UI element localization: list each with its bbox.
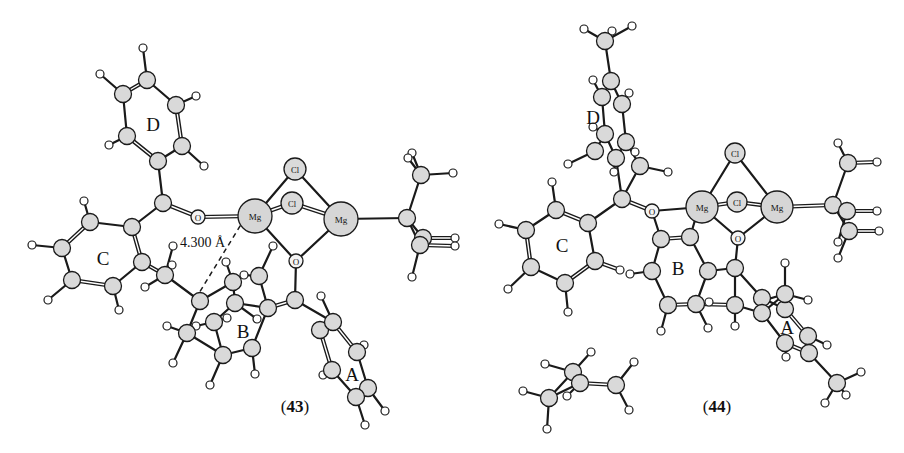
atom-h bbox=[625, 406, 633, 414]
atom-c bbox=[688, 296, 705, 313]
atom-c bbox=[800, 328, 817, 345]
atom-cl: Cl bbox=[725, 143, 745, 163]
atom-c bbox=[644, 263, 661, 280]
atom-h bbox=[206, 381, 214, 389]
ring-label-c: C bbox=[556, 235, 569, 256]
atom-c bbox=[700, 263, 717, 280]
atom-c bbox=[399, 210, 416, 227]
svg-text:Cl: Cl bbox=[731, 149, 740, 159]
ring-label-b: B bbox=[237, 321, 250, 342]
atom-c bbox=[653, 231, 670, 248]
ring-label-a: A bbox=[780, 317, 794, 338]
atom-c bbox=[134, 254, 151, 271]
atom-h bbox=[28, 241, 36, 249]
atom-h bbox=[449, 169, 457, 177]
svg-text:O: O bbox=[293, 257, 300, 267]
atom-c bbox=[660, 297, 677, 314]
atom-c bbox=[287, 292, 304, 309]
atom-c bbox=[412, 237, 429, 254]
atom-h bbox=[821, 399, 829, 407]
atom-h bbox=[564, 308, 572, 316]
svg-text:Cl: Cl bbox=[288, 199, 297, 209]
atom-h bbox=[875, 227, 883, 235]
molecular-structures-figure: OOClClMgMg DCBA 4.300 Å (43) OOClClMgMg … bbox=[0, 0, 904, 453]
caption-44: (44) bbox=[703, 397, 731, 416]
atom-h bbox=[834, 254, 842, 262]
atom-h bbox=[781, 259, 789, 267]
ring-labels-43: DCBA bbox=[97, 114, 359, 385]
atom-c bbox=[608, 150, 625, 167]
atom-c bbox=[557, 275, 574, 292]
atoms-43: OOClClMgMg bbox=[28, 44, 459, 429]
atom-h bbox=[163, 322, 171, 330]
atom-c bbox=[324, 362, 341, 379]
atom-h bbox=[495, 220, 503, 228]
atom-c bbox=[349, 344, 366, 361]
atom-h bbox=[408, 273, 416, 281]
atom-h bbox=[141, 283, 149, 291]
atom-mg: Mg bbox=[686, 191, 718, 223]
svg-text:O: O bbox=[735, 234, 742, 244]
atom-cl: Cl bbox=[727, 192, 747, 212]
atom-h bbox=[589, 76, 597, 84]
atom-h bbox=[873, 207, 881, 215]
svg-text:Mg: Mg bbox=[771, 203, 784, 213]
atom-h bbox=[587, 348, 595, 356]
atom-c bbox=[518, 222, 535, 239]
atom-h bbox=[200, 162, 208, 170]
ring-label-b: B bbox=[672, 258, 685, 279]
atom-c bbox=[115, 86, 132, 103]
atom-cl: Cl bbox=[284, 158, 306, 180]
atom-c bbox=[251, 268, 268, 285]
atom-c bbox=[597, 33, 614, 50]
atom-h bbox=[834, 238, 842, 246]
atom-h bbox=[44, 296, 52, 304]
atom-o: O bbox=[289, 254, 303, 268]
atom-h bbox=[626, 270, 634, 278]
atom-h bbox=[873, 158, 881, 166]
atom-h bbox=[834, 139, 842, 147]
atom-c bbox=[168, 97, 185, 114]
atom-h bbox=[361, 421, 369, 429]
atom-c bbox=[155, 195, 172, 212]
atom-c bbox=[260, 300, 277, 317]
atom-c bbox=[587, 143, 604, 160]
atom-h bbox=[631, 148, 639, 156]
atom-mg: Mg bbox=[761, 191, 793, 223]
atom-h bbox=[192, 92, 200, 100]
atom-c bbox=[572, 375, 589, 392]
caption-43: (43) bbox=[281, 397, 309, 416]
atom-c bbox=[206, 314, 223, 331]
atom-o: O bbox=[731, 231, 745, 245]
atom-cl: Cl bbox=[281, 192, 303, 214]
atom-h bbox=[519, 387, 527, 395]
atom-h bbox=[857, 368, 865, 376]
atom-c bbox=[523, 259, 540, 276]
svg-text:Mg: Mg bbox=[249, 212, 262, 222]
atom-h bbox=[169, 242, 177, 250]
atom-h bbox=[223, 314, 231, 322]
atom-c bbox=[150, 153, 167, 170]
atom-h bbox=[610, 168, 618, 176]
atom-c bbox=[839, 203, 856, 220]
atom-c bbox=[174, 138, 191, 155]
atom-o: O bbox=[645, 204, 659, 218]
atom-c bbox=[139, 72, 156, 89]
atom-h bbox=[404, 154, 412, 162]
atom-c bbox=[829, 375, 846, 392]
ring-label-c: C bbox=[97, 248, 110, 269]
atom-c bbox=[192, 293, 209, 310]
atom-c bbox=[325, 314, 342, 331]
atom-h bbox=[381, 407, 389, 415]
atom-c bbox=[413, 167, 430, 184]
svg-text:Cl: Cl bbox=[733, 198, 742, 208]
atom-c bbox=[541, 390, 558, 407]
atom-c bbox=[614, 191, 631, 208]
atom-h bbox=[625, 89, 633, 97]
atom-c bbox=[801, 345, 818, 362]
atom-c bbox=[54, 240, 71, 257]
structure-43: OOClClMgMg DCBA 4.300 Å (43) bbox=[28, 44, 459, 429]
atom-h bbox=[543, 425, 551, 433]
atom-h bbox=[222, 258, 230, 266]
atom-o: O bbox=[191, 210, 205, 224]
